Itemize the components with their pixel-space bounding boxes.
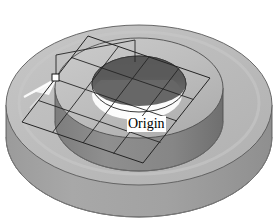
through-hole[interactable]: [92, 56, 186, 120]
origin-marker-square[interactable]: [52, 74, 59, 81]
origin-label[interactable]: Origin: [127, 116, 166, 132]
origin-point-marker[interactable]: [52, 74, 59, 81]
cad-viewport[interactable]: Origin: [0, 0, 279, 224]
cad-model-canvas[interactable]: [0, 0, 279, 224]
